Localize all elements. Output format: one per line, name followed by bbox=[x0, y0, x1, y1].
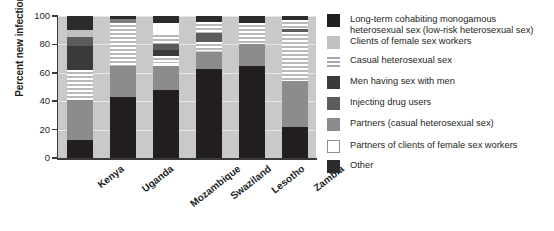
bar-segment-casual-hetero-high bbox=[282, 20, 308, 29]
bar-segment-idu bbox=[67, 37, 93, 46]
legend-label: Casual heterosexual sex bbox=[350, 55, 452, 66]
bar-segment-other-top bbox=[110, 16, 136, 19]
bar-kenya bbox=[67, 16, 93, 158]
bar-segment-partners-casual bbox=[153, 66, 179, 90]
y-axis-tick-label: 60 bbox=[22, 67, 50, 78]
bar-segment-other-top bbox=[239, 16, 265, 23]
y-axis-tick-label: 40 bbox=[22, 95, 50, 106]
bar-segment-casual-hetero-high bbox=[196, 22, 222, 33]
legend-label: Partners of clients of female sex worker… bbox=[350, 140, 517, 151]
x-axis-label-lesotho: Lesotho bbox=[269, 163, 306, 196]
bar-segment-other-top bbox=[282, 16, 308, 20]
legend-swatch bbox=[327, 97, 340, 110]
legend-item: Long-term cohabiting monogamous heterose… bbox=[327, 14, 533, 36]
bar-segment-msm bbox=[67, 46, 93, 70]
y-axis-tick bbox=[52, 44, 57, 46]
y-axis-tick-label: 20 bbox=[22, 124, 50, 135]
bar-segment-idu bbox=[196, 33, 222, 42]
bar-swaziland bbox=[196, 16, 222, 158]
bar-segment-msm bbox=[153, 50, 179, 56]
legend-item: Casual heterosexual sex bbox=[327, 55, 452, 68]
legend-item: Injecting drug users bbox=[327, 97, 431, 110]
bar-segment-longterm bbox=[110, 97, 136, 158]
legend-swatch bbox=[327, 55, 340, 68]
y-axis-tick-label: 100 bbox=[22, 10, 50, 21]
chart-figure: Percent new infections 020406080100 Keny… bbox=[0, 0, 554, 231]
bar-segment-partners-clients-fsw-high bbox=[153, 23, 179, 33]
bar-segment-longterm bbox=[196, 69, 222, 158]
legend-item: Other bbox=[327, 160, 373, 173]
bar-segment-idu bbox=[153, 44, 179, 50]
bar-segment-partners-casual bbox=[110, 66, 136, 97]
bar-segment-idu bbox=[110, 19, 136, 23]
bar-segment-casual-hetero-high bbox=[153, 33, 179, 44]
bar-segment-partners-casual bbox=[67, 100, 93, 140]
y-axis-tick bbox=[52, 100, 57, 102]
bar-segment-idu bbox=[282, 29, 308, 32]
gridline bbox=[58, 73, 316, 74]
legend-swatch bbox=[327, 36, 340, 49]
y-axis-tick bbox=[52, 129, 57, 131]
bar-lesotho bbox=[239, 16, 265, 158]
legend-swatch bbox=[327, 140, 340, 153]
x-axis-label-uganda: Uganda bbox=[139, 163, 175, 194]
legend-label: Partners (casual heterosexual sex) bbox=[350, 118, 494, 129]
y-axis-tick-label: 0 bbox=[22, 152, 50, 163]
x-axis-label-kenya: Kenya bbox=[95, 163, 125, 190]
bar-mozambique bbox=[153, 16, 179, 158]
legend-swatch bbox=[327, 118, 340, 131]
legend-swatch bbox=[327, 160, 340, 173]
legend-label: Injecting drug users bbox=[350, 97, 431, 108]
bar-segment-partners-casual bbox=[239, 44, 265, 65]
bar-segment-longterm bbox=[239, 66, 265, 158]
legend-label: Long-term cohabiting monogamous heterose… bbox=[350, 14, 533, 36]
y-axis-tick bbox=[52, 72, 57, 74]
bar-segment-longterm bbox=[282, 127, 308, 158]
gridline bbox=[58, 16, 316, 17]
bar-segment-other-top bbox=[196, 16, 222, 22]
legend-item: Partners (casual heterosexual sex) bbox=[327, 118, 494, 131]
y-axis-line bbox=[57, 15, 58, 159]
legend-item: Men having sex with men bbox=[327, 76, 455, 89]
x-axis-line bbox=[57, 158, 317, 160]
gridline bbox=[58, 44, 316, 45]
gridline bbox=[58, 130, 316, 131]
bar-segment-other-top bbox=[153, 16, 179, 23]
bar-segment-other-top bbox=[67, 16, 93, 30]
legend-label: Men having sex with men bbox=[350, 76, 455, 87]
legend-item: Partners of clients of female sex worker… bbox=[327, 140, 517, 153]
bar-segment-partners-clients-fsw bbox=[153, 63, 179, 66]
x-axis-label-mozambique: Mozambique bbox=[187, 163, 241, 209]
bar-zambia bbox=[282, 16, 308, 158]
bar-segment-other-bottom bbox=[67, 140, 93, 158]
bar-segment-longterm bbox=[153, 90, 179, 158]
legend-label: Clients of female sex workers bbox=[350, 36, 471, 47]
bar-segment-casual-hetero-low bbox=[282, 32, 308, 82]
bar-uganda bbox=[110, 16, 136, 158]
legend-label: Other bbox=[350, 160, 373, 171]
bar-segment-casual-hetero-low bbox=[196, 42, 222, 52]
legend-swatch bbox=[327, 14, 340, 27]
legend-swatch bbox=[327, 76, 340, 89]
legend-item: Clients of female sex workers bbox=[327, 36, 471, 49]
y-axis-tick-label: 80 bbox=[22, 38, 50, 49]
plot-area bbox=[58, 16, 316, 158]
bar-segment-partners-casual bbox=[196, 52, 222, 69]
bar-segment-casual-hetero-low bbox=[153, 56, 179, 63]
bar-segment-clients-fsw bbox=[67, 30, 93, 37]
bar-segment-casual-hetero bbox=[110, 23, 136, 66]
gridline bbox=[58, 101, 316, 102]
y-axis-tick bbox=[52, 157, 57, 159]
bar-segment-partners-casual bbox=[282, 81, 308, 126]
bar-segment-casual-hetero bbox=[239, 23, 265, 44]
bar-segment-casual-hetero bbox=[67, 70, 93, 100]
y-axis-tick bbox=[52, 15, 57, 17]
